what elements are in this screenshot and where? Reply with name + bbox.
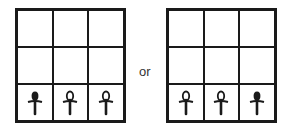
or-label: or (139, 64, 151, 79)
grid-cell (204, 47, 240, 84)
grid-cell (88, 47, 124, 84)
grid-cell (17, 10, 53, 47)
ankh-open-icon (96, 90, 116, 116)
ankh-open-icon (60, 90, 80, 116)
grid-cell (239, 84, 275, 121)
grid-cell (17, 84, 53, 121)
grid-cell (204, 84, 240, 121)
grid-cell (168, 47, 204, 84)
grid-cell (88, 10, 124, 47)
ankh-open-icon (211, 90, 231, 116)
grid-cell (53, 10, 89, 47)
grid-cell (168, 84, 204, 121)
grid-cell (239, 10, 275, 47)
ankh-open-icon (176, 90, 196, 116)
grid-cell (239, 47, 275, 84)
grid-cell (17, 47, 53, 84)
ankh-filled-icon (25, 90, 45, 116)
ankh-filled-icon (247, 90, 267, 116)
left-grid (15, 8, 126, 123)
grid-cell (204, 10, 240, 47)
grid-cell (88, 84, 124, 121)
right-grid (166, 8, 277, 123)
grid-cell (53, 47, 89, 84)
grid-cell (168, 10, 204, 47)
grid-cell (53, 84, 89, 121)
